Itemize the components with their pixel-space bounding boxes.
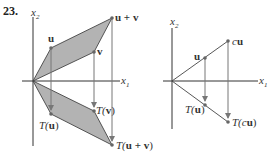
point-Tcu bbox=[226, 120, 230, 124]
point-Tu bbox=[49, 112, 53, 116]
label-Tuv: T(u + v) bbox=[116, 139, 153, 152]
x1-axis-label: x1 bbox=[120, 74, 129, 89]
label-Tu: T(u) bbox=[185, 103, 205, 116]
x1-axis-label: x1 bbox=[258, 74, 267, 89]
line-Tcu bbox=[172, 81, 228, 122]
left-diagram: x2 x1 u v u + v T(u) T(v) T(u + v) bbox=[22, 6, 153, 152]
right-diagram: x2 x1 u cu T(u) T(cu) bbox=[163, 15, 267, 129]
label-v: v bbox=[97, 45, 103, 57]
point-Tuv bbox=[110, 143, 114, 147]
point-u bbox=[203, 56, 207, 60]
label-u-plus-v: u + v bbox=[115, 11, 139, 23]
point-v bbox=[92, 50, 96, 54]
label-Tu: T(u) bbox=[39, 119, 59, 132]
label-u: u bbox=[48, 32, 54, 44]
x2-axis-label: x2 bbox=[30, 6, 40, 21]
problem-number: 23. bbox=[3, 4, 18, 18]
label-cu: cu bbox=[232, 35, 243, 47]
figure-canvas: 23. x2 x1 u v u + v T(u) T(v) T(u + v) bbox=[0, 0, 279, 161]
point-cu bbox=[226, 39, 230, 43]
label-u: u bbox=[194, 50, 200, 62]
label-Tcu: T(cu) bbox=[232, 116, 257, 129]
x2-axis-label: x2 bbox=[169, 15, 179, 30]
point-u-plus-v bbox=[110, 16, 114, 20]
label-Tv: T(v) bbox=[96, 104, 115, 117]
point-u bbox=[49, 46, 53, 50]
